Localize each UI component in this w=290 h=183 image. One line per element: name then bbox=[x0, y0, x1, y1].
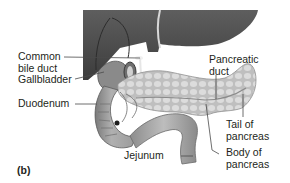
label-duodenum: Duodenum bbox=[18, 98, 69, 109]
label-line: Tail of bbox=[226, 119, 269, 130]
label-pancreatic-duct: Pancreatic duct bbox=[209, 54, 259, 77]
label-line: Common bbox=[18, 51, 61, 62]
panel-label: (b) bbox=[17, 164, 30, 176]
anatomy-figure: Common bile duct Gallbladder Duodenum Pa… bbox=[0, 0, 290, 183]
label-line: Pancreatic bbox=[209, 54, 259, 65]
label-tail-of-pancreas: Tail of pancreas bbox=[226, 119, 269, 142]
label-line: Body of bbox=[226, 147, 269, 158]
label-common-bile-duct: Common bile duct bbox=[18, 51, 61, 74]
label-body-of-pancreas: Body of pancreas bbox=[226, 147, 269, 170]
label-line: pancreas bbox=[226, 131, 269, 142]
label-line: duct bbox=[209, 66, 259, 77]
label-jejunum: Jejunum bbox=[124, 150, 164, 161]
label-gallbladder: Gallbladder bbox=[18, 74, 72, 85]
label-line: pancreas bbox=[226, 159, 269, 170]
